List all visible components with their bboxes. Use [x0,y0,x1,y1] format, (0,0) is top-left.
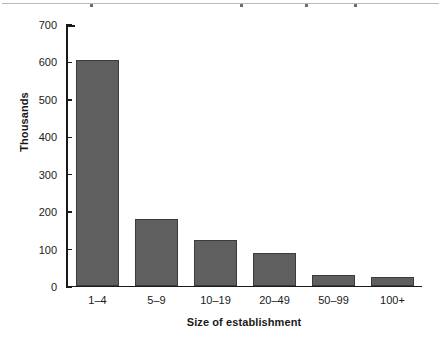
x-tick-label: 50–99 [304,294,363,306]
bar-1-4 [76,60,120,285]
bar-100- [371,277,415,285]
page-rule-decoration [2,3,439,4]
rule-speck [90,4,93,7]
plot-area: 0100200300400500600700 [66,25,422,287]
y-tick-label: 500 [17,94,57,106]
rule-speck [305,4,308,7]
x-axis-line [66,286,422,288]
y-tick-mark [66,286,72,288]
bar-series [68,26,422,286]
x-tick-label: 5–9 [127,294,186,306]
y-tick-label: 100 [17,244,57,256]
bar-slot [68,26,127,286]
y-tick-label: 400 [17,131,57,143]
x-tick-label: 20–49 [245,294,304,306]
bar-10-19 [194,240,238,285]
y-tick-label: 700 [17,19,57,31]
bar-slot [127,26,186,286]
bar-slot [186,26,245,286]
rule-speck [354,4,357,7]
x-tick-label: 1–4 [68,294,127,306]
bar-slot [245,26,304,286]
y-axis-title: Thousands [18,74,30,170]
x-tick-label: 100+ [363,294,422,306]
y-tick-label: 200 [17,206,57,218]
bar-chart-figure: Thousands 0100200300400500600700 1–45–91… [0,0,441,338]
bar-slot [363,26,422,286]
bar-50-99 [312,275,356,285]
x-axis-title: Size of establishment [66,316,422,328]
bar-20-49 [253,253,297,286]
x-tick-label: 10–19 [186,294,245,306]
rule-speck [240,4,243,7]
bar-slot [304,26,363,286]
y-tick-label: 300 [17,169,57,181]
y-tick-label: 0 [17,281,57,293]
bar-5-9 [135,219,179,285]
y-tick-label: 600 [17,56,57,68]
